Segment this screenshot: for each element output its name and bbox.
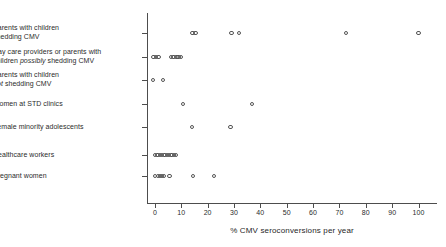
- x-tick-label-80: 80: [354, 209, 378, 216]
- data-point: [167, 174, 171, 178]
- data-point: [416, 31, 420, 35]
- data-point: [174, 153, 178, 157]
- x-tick-40: [260, 204, 261, 208]
- data-point: [237, 31, 241, 35]
- data-point: [151, 78, 155, 82]
- data-point: [193, 31, 197, 35]
- cmv-seroconversion-dot-plot: Parents with childrenshedding CMVDay car…: [0, 0, 446, 247]
- data-point: [179, 55, 183, 59]
- data-point: [161, 78, 165, 82]
- x-tick-100: [419, 204, 420, 208]
- y-tick-5: [142, 155, 147, 156]
- y-tick-4: [142, 127, 147, 128]
- y-tick-2: [142, 80, 147, 81]
- data-point: [229, 31, 233, 35]
- x-axis-title: % CMV seroconversions per year: [147, 226, 437, 235]
- data-point: [344, 31, 348, 35]
- y-tick-0: [142, 33, 147, 34]
- x-tick-90: [392, 204, 393, 208]
- y-axis-line: [147, 13, 148, 204]
- x-tick-label-20: 20: [196, 209, 220, 216]
- x-tick-label-60: 60: [301, 209, 325, 216]
- data-point: [156, 55, 160, 59]
- x-tick-30: [234, 204, 235, 208]
- x-axis-line: [147, 203, 437, 204]
- data-point: [228, 125, 232, 129]
- x-tick-60: [313, 204, 314, 208]
- x-tick-label-0: 0: [143, 209, 167, 216]
- x-tick-label-100: 100: [407, 209, 431, 216]
- data-point: [181, 102, 185, 106]
- y-tick-3: [142, 104, 147, 105]
- x-tick-label-40: 40: [248, 209, 272, 216]
- data-point: [212, 174, 216, 178]
- x-tick-0: [155, 204, 156, 208]
- x-tick-80: [366, 204, 367, 208]
- x-tick-label-70: 70: [327, 209, 351, 216]
- x-tick-label-90: 90: [380, 209, 404, 216]
- x-tick-label-30: 30: [222, 209, 246, 216]
- x-tick-50: [287, 204, 288, 208]
- x-tick-20: [208, 204, 209, 208]
- x-tick-label-10: 10: [169, 209, 193, 216]
- data-point: [191, 174, 195, 178]
- data-point: [190, 125, 194, 129]
- x-tick-10: [181, 204, 182, 208]
- data-point: [250, 102, 254, 106]
- x-tick-label-50: 50: [275, 209, 299, 216]
- y-tick-1: [142, 57, 147, 58]
- data-point: [162, 174, 166, 178]
- x-tick-70: [339, 204, 340, 208]
- y-tick-6: [142, 176, 147, 177]
